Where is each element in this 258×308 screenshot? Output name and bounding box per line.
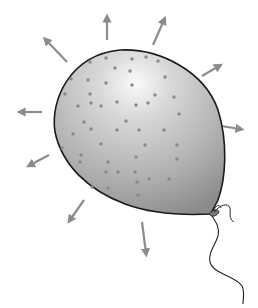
- surface-dot: [106, 160, 109, 163]
- surface-dot: [76, 104, 79, 107]
- surface-dot: [104, 81, 107, 84]
- surface-dot: [167, 177, 170, 180]
- arrow-up-right-icon: [153, 20, 164, 45]
- surface-dot: [134, 103, 137, 106]
- surface-dot: [113, 66, 116, 69]
- surface-dot: [88, 92, 91, 95]
- surface-dot: [78, 160, 81, 163]
- surface-dot: [82, 120, 85, 123]
- surface-dot: [106, 186, 109, 189]
- surface-dot: [60, 146, 63, 149]
- surface-dot: [116, 170, 119, 173]
- surface-dot: [130, 83, 133, 86]
- surface-dot: [134, 155, 137, 158]
- surface-dot: [136, 193, 139, 196]
- surface-dot: [130, 57, 133, 60]
- balloon-string: [210, 216, 244, 304]
- balloon-body: [54, 50, 225, 215]
- surface-dot: [99, 142, 102, 145]
- surface-dot: [175, 157, 178, 160]
- surface-dot: [144, 55, 147, 58]
- surface-dot: [115, 128, 118, 131]
- surface-dot: [128, 69, 131, 72]
- surface-dot: [135, 180, 138, 183]
- surface-dot: [172, 95, 175, 98]
- surface-dot: [177, 112, 180, 115]
- arrow-right-icon: [221, 126, 240, 129]
- balloon-figure: [0, 0, 258, 308]
- arrow-right-upper-icon: [202, 66, 219, 76]
- surface-dot: [71, 132, 74, 135]
- surface-dot: [115, 100, 118, 103]
- surface-dot: [89, 127, 92, 130]
- surface-dot: [162, 128, 165, 131]
- surface-dot: [89, 101, 92, 104]
- arrow-up-left-icon: [46, 40, 67, 62]
- surface-dot: [63, 92, 66, 95]
- surface-dot: [79, 153, 82, 156]
- surface-dot: [143, 143, 146, 146]
- arrow-down-icon: [142, 222, 146, 253]
- arrow-down-left-icon: [70, 200, 84, 220]
- surface-dot: [153, 93, 156, 96]
- surface-dot: [124, 119, 127, 122]
- surface-dot: [156, 59, 159, 62]
- arrow-left-lower-icon: [30, 155, 49, 165]
- surface-dot: [133, 170, 136, 173]
- surface-dot: [69, 77, 72, 80]
- surface-dot: [104, 56, 107, 59]
- surface-dot: [175, 143, 178, 146]
- balloon-diagram: [0, 0, 258, 308]
- surface-dot: [104, 170, 107, 173]
- surface-dot: [137, 128, 140, 131]
- surface-dot: [163, 75, 166, 78]
- surface-dot: [90, 185, 93, 188]
- surface-dot: [99, 104, 102, 107]
- surface-dot: [86, 78, 89, 81]
- surface-dot: [146, 101, 149, 104]
- surface-dot: [88, 60, 91, 63]
- surface-dot: [147, 177, 150, 180]
